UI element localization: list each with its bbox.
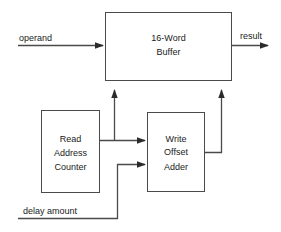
write-offset-adder-to-buffer-line xyxy=(205,90,222,153)
read-address-counter-label-line3: Counter xyxy=(41,162,100,173)
delay-amount-signal-label: delay amount xyxy=(23,206,77,217)
read-address-counter-label-line2: Address xyxy=(41,148,100,159)
buffer-label-line2: Buffer xyxy=(105,47,232,58)
operand-signal-label: operand xyxy=(19,33,52,44)
read-address-counter-label-line1: Read xyxy=(41,134,100,145)
result-signal-label: result xyxy=(240,31,262,42)
write-offset-adder-label-line1: Write xyxy=(147,134,205,145)
write-offset-adder-label-line2: Offset xyxy=(147,147,205,158)
block-diagram-canvas: 16-Word Buffer Read Address Counter Writ… xyxy=(0,0,281,232)
buffer-label-line1: 16-Word xyxy=(105,33,232,44)
write-offset-adder-label-line3: Adder xyxy=(147,162,205,173)
